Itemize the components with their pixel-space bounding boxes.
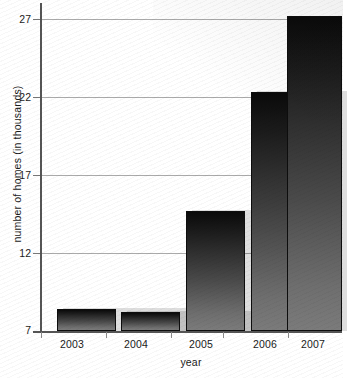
y-tick-label-22: 22	[0, 91, 31, 103]
y-tick-label-17: 17	[0, 169, 31, 181]
y-tick-label-7: 7	[0, 324, 31, 336]
y-tick-mark-27	[33, 19, 40, 20]
bar-2005[interactable]	[186, 211, 245, 331]
y-tick-mark-12	[33, 253, 40, 254]
y-axis-title: number of homes (in thousands)	[11, 54, 23, 274]
x-tick-mark-0	[41, 332, 42, 338]
x-tick-mark-4	[288, 332, 289, 338]
y-tick-label-12: 12	[0, 247, 31, 259]
x-tick-mark-1	[106, 332, 107, 338]
x-axis-title: year	[40, 356, 342, 368]
plot-area	[40, 3, 342, 331]
x-tick-label-2007: 2007	[283, 338, 343, 350]
bar-2004[interactable]	[121, 312, 180, 331]
y-tick-mark-17	[33, 175, 40, 176]
bar-2003[interactable]	[57, 309, 116, 331]
y-tick-mark-22	[33, 97, 40, 98]
bar-2007[interactable]	[287, 16, 342, 331]
x-tick-mark-2	[171, 332, 172, 338]
x-axis-line	[33, 331, 342, 333]
x-tick-label-2005: 2005	[171, 338, 231, 350]
y-axis-line	[40, 3, 42, 331]
x-tick-label-2003: 2003	[42, 338, 102, 350]
x-tick-mark-3	[223, 332, 224, 338]
y-tick-label-27: 27	[0, 13, 31, 25]
x-tick-label-2004: 2004	[106, 338, 166, 350]
